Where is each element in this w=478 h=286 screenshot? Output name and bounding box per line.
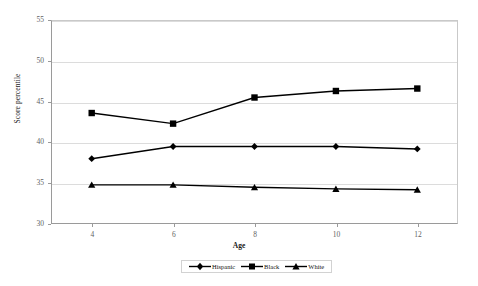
gridline xyxy=(52,21,457,22)
gridline xyxy=(52,103,457,104)
diamond-marker-icon xyxy=(189,262,211,271)
y-tick-label: 55 xyxy=(14,15,44,24)
x-tick-mark xyxy=(418,224,419,227)
legend-label-hispanic: Hispanic xyxy=(212,263,235,270)
x-tick-label: 6 xyxy=(154,230,194,239)
legend-label-white: White xyxy=(308,263,324,270)
x-tick-mark xyxy=(92,224,93,227)
x-tick-label: 4 xyxy=(72,230,112,239)
legend-label-black: Black xyxy=(264,263,279,270)
y-axis-title: Score percentile xyxy=(13,39,22,159)
plot-area xyxy=(51,20,458,224)
gridline xyxy=(52,184,457,185)
x-tick-mark xyxy=(337,224,338,227)
x-tick-mark xyxy=(255,224,256,227)
x-tick-label: 12 xyxy=(398,230,438,239)
gridline xyxy=(52,62,457,63)
x-tick-label: 8 xyxy=(235,230,275,239)
x-tick-label: 10 xyxy=(317,230,357,239)
triangle-marker-icon xyxy=(285,262,307,271)
legend-item-white[interactable]: White xyxy=(285,262,324,271)
square-marker-icon xyxy=(241,262,263,271)
x-tick-mark xyxy=(174,224,175,227)
y-tick-label: 35 xyxy=(14,178,44,187)
legend-item-black[interactable]: Black xyxy=(241,262,279,271)
gridline xyxy=(52,143,457,144)
chart-container: 55 50 45 40 35 30 Score percentile 4 6 8… xyxy=(0,0,478,286)
y-tick-label: 30 xyxy=(14,219,44,228)
y-tick-mark xyxy=(48,224,51,225)
chart-legend: Hispanic Black White xyxy=(181,260,332,273)
x-axis-title: Age xyxy=(0,241,478,250)
legend-item-hispanic[interactable]: Hispanic xyxy=(189,262,235,271)
